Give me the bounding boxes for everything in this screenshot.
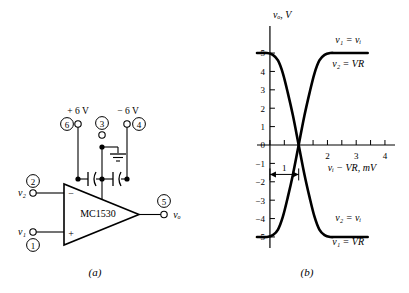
input-v2-label: v₂	[18, 187, 26, 198]
pin-bubble-6-label: 6	[65, 120, 70, 130]
pin-bubble-3: 3	[96, 117, 109, 130]
terminal-pin2[interactable]	[30, 190, 36, 196]
junction-dot-pin4	[124, 176, 129, 181]
annotation-arrowhead-0	[270, 171, 276, 177]
pin-bubble-2: 2	[27, 175, 40, 188]
y-tick-label: 3	[260, 85, 265, 95]
circuit-schematic: 6 3 4 + 6 V − 6 V MC1530 − +	[0, 0, 205, 293]
x-axis-title: vᵢ − VR, mV	[328, 162, 378, 173]
y-tick-label: −2	[255, 177, 265, 187]
terminal-pin3[interactable]	[99, 132, 105, 138]
transfer-characteristic-plot: 234 −5−4−3−2−1012345 1 vₒ, Vvᵢ − VR, mVv…	[205, 0, 409, 293]
x-tick-label: 4	[383, 151, 388, 161]
supply-positive-label: + 6 V	[67, 106, 89, 116]
capacitor-1-plate-b	[94, 172, 96, 186]
annotation-label: 1	[282, 163, 287, 173]
pin-bubble-1: 1	[27, 239, 40, 252]
y-tick-label: 4	[260, 67, 265, 77]
annotation-arrowhead-1	[293, 171, 299, 177]
ground-icon	[110, 154, 126, 161]
y-axis-title: vₒ, V	[273, 9, 293, 20]
junction-dot-pin3	[99, 176, 104, 181]
panel-b-chart: 234 −5−4−3−2−1012345 1 vₒ, Vvᵢ − VR, mVv…	[205, 0, 409, 293]
pin-bubble-4-label: 4	[137, 120, 142, 130]
x-tick-label: 2	[325, 151, 330, 161]
pin-bubble-5: 5	[158, 195, 171, 208]
pin-bubble-5-label: 5	[162, 197, 167, 207]
y-tick-label: 2	[260, 104, 265, 114]
terminal-pin1[interactable]	[30, 229, 36, 235]
pin-bubble-3-label: 3	[100, 119, 105, 129]
noninverting-input-symbol: +	[68, 228, 74, 239]
y-tick-label: −3	[255, 196, 265, 206]
y-tick-label: −4	[255, 214, 265, 224]
curve-label-upper-bottom: v₂ = VR	[332, 58, 364, 69]
input-v1-label: v₁	[18, 226, 26, 237]
chip-label: MC1530	[80, 208, 116, 219]
figure-root: 6 3 4 + 6 V − 6 V MC1530 − +	[0, 0, 409, 293]
capacitor-2-plate-b	[119, 172, 121, 186]
y-tick-label: −1	[255, 159, 265, 169]
output-label: vₒ	[173, 209, 180, 220]
pin-bubble-6: 6	[61, 118, 74, 131]
junction-dot-pin6	[75, 176, 80, 181]
chart-text: vₒ, Vvᵢ − VR, mVv₁ = vᵢv₂ = VRv₂ = vᵢv₁ …	[273, 9, 378, 279]
pin-bubble-4: 4	[133, 118, 146, 131]
curve-label-lower-top: v₂ = vᵢ	[335, 212, 361, 223]
chart-ticks-x: 234	[270, 140, 388, 161]
pin-bubble-1-label: 1	[31, 241, 36, 251]
x-tick-label: 3	[354, 151, 359, 161]
curve-label-lower-bottom: v₁ = VR	[332, 236, 364, 247]
inverting-input-symbol: −	[68, 188, 74, 199]
supply-negative-label: − 6 V	[117, 106, 139, 116]
curve-label-upper-top: v₁ = vᵢ	[335, 34, 361, 45]
terminal-pin6[interactable]	[75, 121, 81, 127]
terminal-pin5[interactable]	[161, 211, 167, 217]
y-tick-label: 1	[260, 122, 265, 132]
panel-a-caption: (a)	[89, 266, 102, 279]
terminal-pin4[interactable]	[124, 121, 130, 127]
panel-a-circuit: 6 3 4 + 6 V − 6 V MC1530 − +	[0, 0, 205, 293]
pin-bubble-2-label: 2	[31, 177, 36, 187]
panel-b-caption: (b)	[301, 266, 314, 279]
